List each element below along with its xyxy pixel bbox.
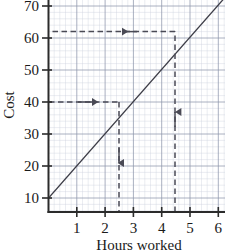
y-axis-title: Cost [1,90,17,118]
y-tick-label: 20 [24,158,39,174]
x-axis-title: Hours worked [96,237,182,252]
x-tick-label: 6 [215,220,223,236]
x-tick-label: 2 [101,220,109,236]
y-tick-label: 70 [24,0,39,14]
y-tick-label: 50 [24,62,39,78]
x-tick-label: 3 [130,220,138,236]
chart-svg: 70 60 50 40 30 20 10 1 2 3 4 5 6 Hours w… [0,0,225,252]
y-tick-label: 40 [24,94,39,110]
x-tick-label-group: 1 2 3 4 5 6 [73,220,223,236]
cost-vs-hours-worked-chart: 70 60 50 40 30 20 10 1 2 3 4 5 6 Hours w… [0,0,225,252]
y-tick-label-group: 70 60 50 40 30 20 10 [24,0,39,206]
y-tick-label: 10 [24,190,39,206]
x-tick-label: 5 [186,220,194,236]
y-tick-label: 60 [24,30,39,46]
x-tick-label: 4 [158,220,166,236]
y-tick-label: 30 [24,126,39,142]
x-tick-label: 1 [73,220,81,236]
